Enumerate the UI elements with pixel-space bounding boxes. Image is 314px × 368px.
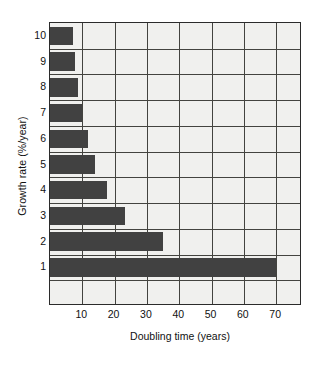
bar-series <box>50 23 300 304</box>
bar-5 <box>50 155 95 174</box>
bar-2 <box>50 232 163 251</box>
plot-area <box>49 22 301 305</box>
x-axis-title-text: Doubling time (years) <box>84 330 230 342</box>
y-tick-label-8: 8 <box>14 81 46 91</box>
y-axis-tick-labels: 12345678910 <box>14 22 46 305</box>
bar-6 <box>50 130 88 149</box>
bar-3 <box>50 207 125 226</box>
y-tick-label-9: 9 <box>14 56 46 66</box>
bar-10 <box>50 27 73 46</box>
y-tick-label-10: 10 <box>14 30 46 40</box>
y-tick-label-2: 2 <box>14 236 46 246</box>
y-tick-label-5: 5 <box>14 159 46 169</box>
bar-8 <box>50 78 78 97</box>
chart-figure: Growth rate (%/year) 12345678910 1020304… <box>0 0 314 368</box>
bar-7 <box>50 104 82 123</box>
x-axis-tick-labels: 10203040506070 <box>49 308 301 324</box>
y-tick-label-1: 1 <box>14 261 46 271</box>
y-tick-label-4: 4 <box>14 184 46 194</box>
bar-1 <box>50 258 276 277</box>
y-tick-label-6: 6 <box>14 133 46 143</box>
x-tick-label-70: 70 <box>255 308 295 320</box>
y-tick-label-3: 3 <box>14 210 46 220</box>
x-axis-title: Doubling time (years) <box>0 330 314 342</box>
y-tick-label-7: 7 <box>14 107 46 117</box>
bar-9 <box>50 52 75 71</box>
bar-4 <box>50 181 107 200</box>
